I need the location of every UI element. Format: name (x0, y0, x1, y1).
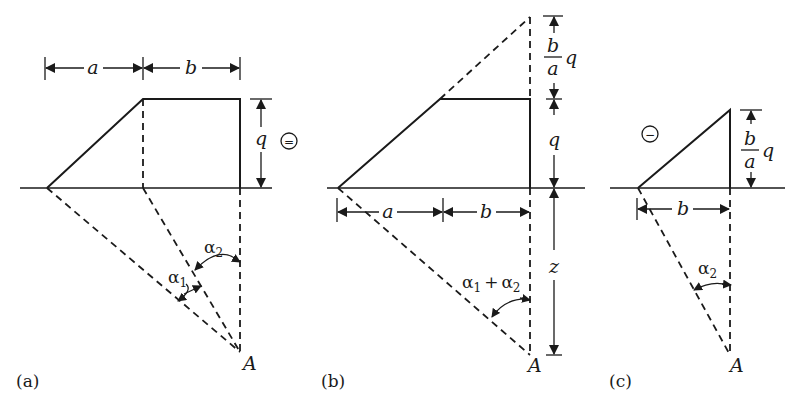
ray-middle (143, 188, 240, 352)
dim-z-label: z (548, 255, 560, 277)
ray-left (47, 188, 240, 352)
point-a-label: A (526, 354, 542, 376)
caption-c: (c) (609, 371, 632, 391)
superposition-diagram: a b q = α2 α1 A (a) (0, 0, 801, 419)
extended-slope (440, 17, 530, 99)
panel-c: − b b a q α2 A (c) (609, 110, 785, 391)
caption-b: (b) (321, 371, 345, 391)
alpha1-label: α1 (168, 267, 187, 290)
equals-sign: = (284, 135, 294, 149)
dim-b-label: b (677, 197, 689, 219)
minus-sign: − (645, 128, 655, 142)
dim-q-label: q (548, 128, 560, 150)
dim-b-label: b (185, 56, 197, 78)
panel-b: a b b a q q z α1+α2 A (b) (321, 16, 585, 391)
dim-a-label: a (87, 56, 98, 78)
frac-numerator: b (744, 127, 756, 149)
point-a-label: A (728, 354, 744, 376)
alpha2-label: α2 (204, 237, 223, 260)
frac-q: q (565, 46, 577, 68)
point-a-label: A (241, 352, 257, 374)
frac-denominator: a (547, 57, 558, 79)
alpha-sum-label: α1+α2 (462, 272, 521, 295)
caption-a: (a) (16, 371, 39, 391)
frac-denominator: a (744, 150, 755, 172)
frac-numerator: b (547, 34, 559, 56)
dim-b-label: b (480, 200, 492, 222)
trapezoid-load (338, 99, 530, 188)
dim-a-label: a (382, 200, 393, 222)
frac-q: q (762, 139, 774, 161)
alpha2-label: α2 (698, 258, 717, 281)
alpha-sum-arc (492, 299, 528, 317)
panel-a: a b q = α2 α1 A (a) (16, 56, 297, 391)
dim-q-label: q (255, 127, 267, 149)
triangle-load (638, 110, 730, 188)
